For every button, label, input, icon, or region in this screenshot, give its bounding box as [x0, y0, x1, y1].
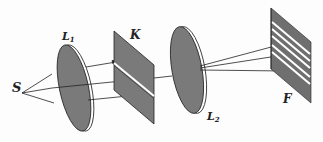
plate-k-body [114, 31, 154, 124]
source-rays [22, 74, 54, 103]
label-lens1: L1 [61, 30, 75, 44]
ray-k-l2 [154, 76, 172, 78]
label-plate: K [129, 28, 141, 42]
screen-f [271, 8, 311, 103]
diagram-canvas: S L1 K L2 F [0, 0, 323, 142]
label-lens2: L2 [206, 110, 220, 124]
optics-diagram: S L1 K L2 F [0, 0, 323, 142]
lens-l1 [51, 42, 101, 134]
ray-source-lower [22, 93, 54, 103]
label-source: S [12, 80, 21, 95]
slit-plate-k [114, 31, 154, 124]
rays-k-to-l2 [154, 76, 172, 78]
label-screen: F [282, 92, 293, 106]
ray-parallel-upper [86, 62, 116, 67]
